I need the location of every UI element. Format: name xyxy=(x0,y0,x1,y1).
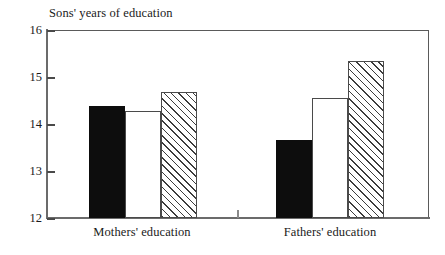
bars-layer xyxy=(0,0,445,218)
x-category-label-mothers: Mothers' education xyxy=(72,225,212,240)
bar-fathers-solid xyxy=(276,140,312,218)
bar-mothers-solid xyxy=(89,106,125,218)
bar-mothers-hatched xyxy=(161,92,197,218)
bar-chart: Sons' years of education 16 15 14 13 12 … xyxy=(0,0,445,255)
x-category-label-fathers: Fathers' education xyxy=(260,225,400,240)
bar-mothers-open xyxy=(125,111,161,218)
bar-fathers-open xyxy=(312,98,348,218)
bar-fathers-hatched xyxy=(348,61,384,218)
x-axis-center-tick xyxy=(237,210,239,218)
y-tick-12 xyxy=(47,218,55,220)
